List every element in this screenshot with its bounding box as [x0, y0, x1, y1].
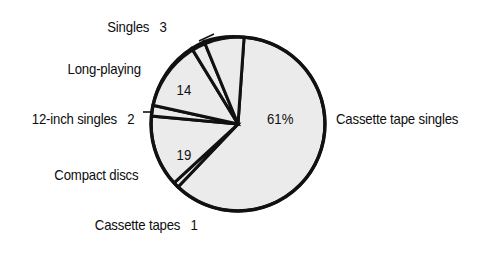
label-singles-name: Singles — [107, 19, 149, 35]
label-cassette-tapes-name: Cassette tapes — [95, 217, 180, 233]
pie-chart-figure: Singles3 Long-playing 12-inch singles2 C… — [0, 0, 499, 255]
slice-value-long-playing: 14 — [177, 83, 192, 97]
slice-value-compact-discs: 19 — [177, 148, 192, 162]
pie-chart-graphic — [0, 0, 499, 255]
label-12-inch-singles-name: 12-inch singles — [32, 111, 117, 127]
label-12-inch-singles[interactable]: 12-inch singles2 — [32, 112, 135, 126]
slice-value-cassette-tape-singles: 61% — [267, 112, 293, 126]
label-singles-value: 3 — [159, 19, 166, 35]
label-long-playing[interactable]: Long-playing — [68, 62, 141, 76]
label-cassette-tape-singles[interactable]: Cassette tape singles — [336, 112, 458, 126]
label-cassette-tape-singles-name: Cassette tape singles — [336, 111, 458, 127]
label-cassette-tapes-value: 1 — [191, 217, 198, 233]
label-singles[interactable]: Singles3 — [107, 20, 166, 34]
label-compact-discs[interactable]: Compact discs — [54, 168, 138, 182]
label-long-playing-name: Long-playing — [68, 61, 141, 77]
label-compact-discs-name: Compact discs — [54, 167, 138, 183]
label-cassette-tapes[interactable]: Cassette tapes1 — [95, 218, 198, 232]
label-12-inch-singles-value: 2 — [127, 111, 134, 127]
